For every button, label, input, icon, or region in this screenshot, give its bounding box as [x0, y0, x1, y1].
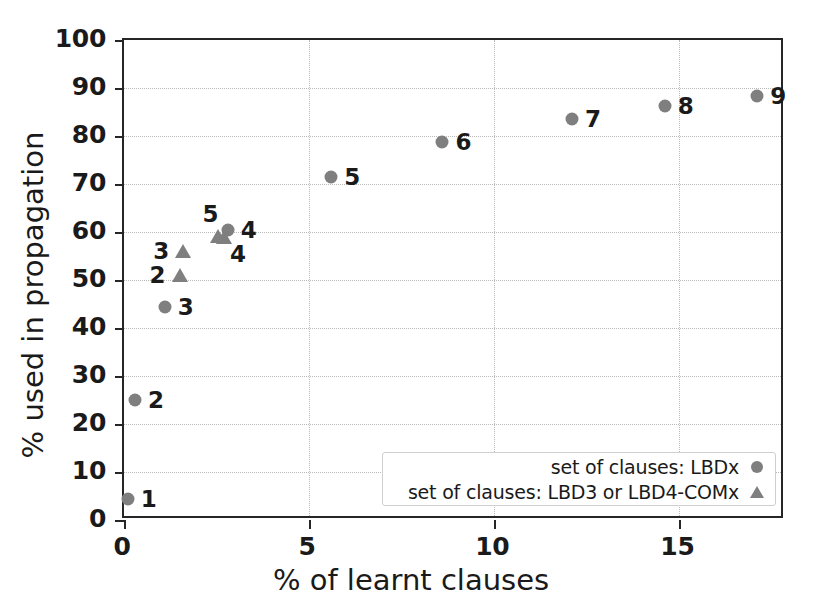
y-tick-label: 100	[55, 24, 106, 53]
y-tick-mark	[115, 40, 124, 42]
plot-area: 1234567892345	[122, 38, 783, 518]
gridline-horizontal	[124, 184, 781, 185]
data-point-label: 2	[148, 387, 164, 413]
y-tick-label: 30	[72, 360, 106, 389]
gridline-horizontal	[124, 280, 781, 281]
y-tick-mark	[115, 184, 124, 186]
data-point-label: 2	[150, 262, 166, 288]
y-tick-mark	[115, 424, 124, 426]
data-point-label: 5	[344, 164, 360, 190]
legend-triangle-marker-icon	[739, 486, 775, 498]
data-point-label: 4	[230, 241, 246, 267]
y-tick-label: 0	[89, 504, 106, 533]
data-point-marker	[158, 301, 171, 314]
scatter-chart-figure: % used in propagation % of learnt clause…	[0, 0, 822, 614]
data-point-label: 3	[153, 238, 169, 264]
y-axis-title: % used in propagation	[16, 95, 50, 495]
data-point-label: 5	[202, 201, 218, 227]
x-tick-mark	[679, 520, 681, 529]
y-tick-label: 90	[72, 72, 106, 101]
x-tick-mark	[124, 520, 126, 529]
data-point-marker	[210, 229, 226, 243]
gridline-vertical	[309, 40, 310, 516]
legend-circle-marker-icon	[739, 461, 775, 473]
gridline-horizontal	[124, 424, 781, 425]
y-tick-label: 50	[72, 264, 106, 293]
data-point-marker	[658, 99, 671, 112]
legend-entry-lbdx[interactable]: set of clauses: LBDx	[383, 454, 775, 480]
y-tick-mark	[115, 472, 124, 474]
y-tick-label: 80	[72, 120, 106, 149]
gridline-horizontal	[124, 88, 781, 89]
x-tick-label: 0	[113, 532, 130, 561]
y-tick-label: 40	[72, 312, 106, 341]
data-point-label: 9	[770, 83, 786, 109]
data-point-marker	[129, 394, 142, 407]
x-tick-label: 5	[299, 532, 316, 561]
data-point-label: 3	[178, 294, 194, 320]
data-point-marker	[121, 493, 134, 506]
y-tick-mark	[115, 136, 124, 138]
y-tick-mark	[115, 280, 124, 282]
x-tick-mark	[309, 520, 311, 529]
y-tick-mark	[115, 520, 124, 522]
data-point-marker	[436, 135, 449, 148]
gridline-horizontal	[124, 328, 781, 329]
y-tick-mark	[115, 232, 124, 234]
data-point-label: 4	[241, 217, 257, 243]
data-point-label: 7	[585, 106, 601, 132]
x-tick-mark	[494, 520, 496, 529]
gridline-vertical	[494, 40, 495, 516]
gridline-horizontal	[124, 376, 781, 377]
data-point-label: 6	[455, 129, 471, 155]
data-point-marker	[175, 244, 191, 258]
y-tick-label: 70	[72, 168, 106, 197]
x-tick-label: 15	[660, 532, 694, 561]
y-tick-mark	[115, 328, 124, 330]
y-tick-mark	[115, 376, 124, 378]
legend-label-lbd3-lbd4comx: set of clauses: LBD3 or LBD4-COMx	[408, 481, 739, 503]
x-tick-label: 10	[475, 532, 509, 561]
y-tick-label: 10	[72, 456, 106, 485]
y-tick-label: 60	[72, 216, 106, 245]
data-point-marker	[325, 170, 338, 183]
x-axis-title: % of learnt clauses	[0, 563, 822, 597]
data-point-marker	[172, 268, 188, 282]
legend-entry-lbd3-lbd4comx[interactable]: set of clauses: LBD3 or LBD4-COMx	[383, 479, 775, 505]
y-tick-mark	[115, 88, 124, 90]
data-point-label: 8	[678, 93, 694, 119]
y-tick-label: 20	[72, 408, 106, 437]
chart-legend[interactable]: set of clauses: LBDx set of clauses: LBD…	[382, 452, 776, 506]
data-point-marker	[566, 113, 579, 126]
data-point-marker	[751, 90, 764, 103]
data-point-label: 1	[141, 486, 157, 512]
legend-label-lbdx: set of clauses: LBDx	[551, 456, 739, 478]
gridline-horizontal	[124, 136, 781, 137]
